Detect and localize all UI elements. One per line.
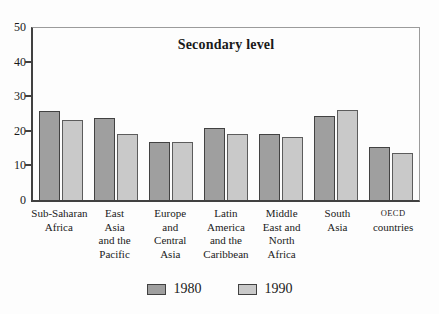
x-label-line: Europe (143, 207, 198, 221)
x-label-line: South (310, 207, 365, 221)
legend-item-1980: 1980 (147, 281, 202, 297)
x-label-line: East (87, 207, 142, 221)
bar-1980 (369, 147, 390, 200)
bar-1980 (204, 128, 225, 200)
x-label-line: and the (198, 234, 253, 248)
legend-swatch-icon (238, 284, 257, 295)
x-label-line: Asia (87, 221, 142, 235)
bar-1980 (259, 134, 280, 200)
bar-1980 (149, 142, 170, 200)
y-tick-label: 50 (0, 20, 26, 35)
x-label-line: Central (143, 234, 198, 248)
x-label-line: America (198, 221, 253, 235)
x-label-line: OECD (366, 207, 421, 221)
bar-1990 (337, 110, 358, 200)
plot-area: Secondary level (31, 27, 420, 202)
bar-1980 (94, 118, 115, 200)
bar-chart-figure: 01020304050 Secondary level Sub-SaharanA… (0, 0, 439, 314)
bar-group (94, 118, 138, 200)
bar-1980 (314, 116, 335, 200)
bar-1990 (172, 142, 193, 200)
bar-group (39, 111, 83, 200)
x-axis-category-label: MiddleEast andNorthAfrica (254, 207, 309, 261)
x-axis-category-label: OECDcountries (366, 207, 421, 261)
bar-1990 (392, 153, 413, 200)
x-label-line: Africa (254, 248, 309, 262)
x-axis-category-label: EuropeandCentralAsia (143, 207, 198, 261)
x-axis-labels: Sub-SaharanAfricaEastAsiaand thePacificE… (31, 207, 421, 261)
x-label-line: Sub-Saharan (31, 207, 86, 221)
legend-swatch-icon (147, 284, 166, 295)
legend-item-1990: 1990 (238, 281, 293, 297)
y-tick-label: 40 (0, 54, 26, 69)
x-label-line: countries (366, 221, 421, 235)
bar-groups (33, 28, 419, 200)
bar-group (369, 147, 413, 200)
bar-group (149, 142, 193, 200)
x-label-line: North (254, 234, 309, 248)
x-label-line: Pacific (87, 248, 142, 262)
x-label-line: Asia (310, 221, 365, 235)
bar-group (314, 110, 358, 200)
bar-group (204, 128, 248, 200)
legend-label: 1980 (174, 281, 202, 297)
x-axis-category-label: Sub-SaharanAfrica (31, 207, 86, 261)
y-tick-label: 30 (0, 89, 26, 104)
bar-1990 (227, 134, 248, 200)
bar-1990 (62, 120, 83, 200)
x-axis-category-label: SouthAsia (310, 207, 365, 261)
bar-1990 (117, 134, 138, 200)
bar-group (259, 134, 303, 200)
x-label-line: Latin (198, 207, 253, 221)
x-axis-category-label: EastAsiaand thePacific (87, 207, 142, 261)
x-axis-category-label: LatinAmericaand theCaribbean (198, 207, 253, 261)
x-label-line: East and (254, 221, 309, 235)
x-label-line: and (143, 221, 198, 235)
bar-1990 (282, 137, 303, 200)
x-label-line: Asia (143, 248, 198, 262)
y-tick-label: 20 (0, 123, 26, 138)
x-label-line: Middle (254, 207, 309, 221)
legend-label: 1990 (265, 281, 293, 297)
y-tick-label: 10 (0, 158, 26, 173)
legend: 19801990 (0, 281, 439, 297)
x-label-line: Caribbean (198, 248, 253, 262)
x-label-line: Africa (31, 221, 86, 235)
x-label-line: and the (87, 234, 142, 248)
bar-1980 (39, 111, 60, 200)
y-tick-label: 0 (0, 193, 26, 208)
